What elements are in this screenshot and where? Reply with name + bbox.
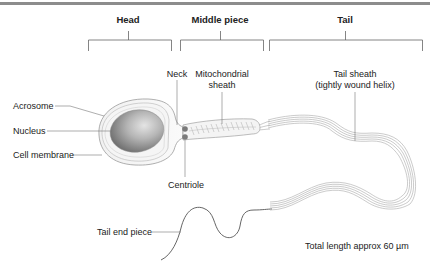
label-total-length: Total length approx 60 µm: [305, 241, 409, 252]
leader-acrosome: [55, 106, 104, 116]
label-tail-sheath-line1: Tail sheath: [333, 69, 376, 80]
mitochondrial-sheath: [183, 119, 260, 140]
centriole-distal: [182, 134, 188, 140]
label-mitochondrial-sheath-line1: Mitochondrial: [195, 69, 249, 80]
label-neck: Neck: [167, 69, 188, 80]
centriole-proximal: [182, 126, 188, 132]
tail-bracket: [270, 31, 423, 51]
section-label-middle-piece: Middle piece: [191, 14, 248, 25]
middle-piece-bracket: [181, 31, 264, 51]
section-label-head: Head: [116, 14, 139, 25]
label-cell-membrane: Cell membrane: [13, 150, 74, 161]
tail-end-piece: [161, 207, 272, 260]
label-mitochondrial-sheath-line2: sheath: [208, 80, 235, 91]
label-tail-sheath-line2: (tightly wound helix): [315, 80, 395, 91]
section-label-tail: Tail: [337, 14, 353, 25]
sperm-diagram: [0, 0, 434, 273]
head-bracket: [89, 31, 172, 51]
label-nucleus: Nucleus: [13, 126, 46, 137]
label-centriole: Centriole: [168, 180, 204, 191]
label-tail-end-piece: Tail end piece: [97, 227, 152, 238]
tail-sheath: [268, 115, 416, 210]
label-acrosome: Acrosome: [13, 101, 54, 112]
